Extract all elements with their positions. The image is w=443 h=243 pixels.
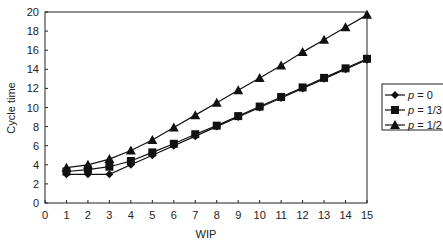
square-marker xyxy=(391,106,399,114)
x-tick-label: 14 xyxy=(339,209,351,221)
series-triangle xyxy=(61,10,372,172)
triangle-marker xyxy=(255,73,265,82)
triangle-marker xyxy=(276,60,286,69)
y-tick-label: 16 xyxy=(27,44,39,56)
square-marker xyxy=(127,157,135,165)
square-marker xyxy=(342,64,350,72)
x-tick-label: 2 xyxy=(85,209,91,221)
y-tick-label: 10 xyxy=(27,102,39,114)
square-marker xyxy=(363,55,371,63)
y-tick-label: 20 xyxy=(27,6,39,18)
x-tick-label: 3 xyxy=(106,209,112,221)
triangle-marker xyxy=(169,123,179,132)
triangle-marker xyxy=(190,110,200,119)
x-tick-label: 13 xyxy=(318,209,330,221)
triangle-marker xyxy=(362,10,372,19)
triangle-marker xyxy=(298,47,308,56)
x-axis-title: WIP xyxy=(196,228,217,240)
series-line xyxy=(66,15,367,168)
square-marker xyxy=(299,83,307,91)
x-tick-label: 12 xyxy=(296,209,308,221)
triangle-marker xyxy=(126,145,136,154)
series-lines xyxy=(61,10,372,178)
y-tick-label: 8 xyxy=(33,121,39,133)
triangle-marker xyxy=(233,85,243,94)
y-tick-label: 18 xyxy=(27,25,39,37)
x-tick-label: 4 xyxy=(128,209,134,221)
square-marker xyxy=(191,130,199,138)
square-marker xyxy=(213,122,221,130)
triangle-marker xyxy=(104,154,114,163)
x-tick-label: 7 xyxy=(192,209,198,221)
x-tick-label: 6 xyxy=(171,209,177,221)
square-marker xyxy=(234,112,242,120)
x-tick-label: 8 xyxy=(214,209,220,221)
legend: p = 0p = 1/3p = 1/2 xyxy=(382,84,443,131)
x-tick-label: 0 xyxy=(42,209,48,221)
square-marker xyxy=(105,163,113,171)
triangle-marker xyxy=(212,98,222,107)
triangle-marker xyxy=(147,135,157,144)
square-marker xyxy=(148,148,156,156)
legend-label: p = 1/3 xyxy=(407,104,442,116)
y-tick-label: 2 xyxy=(33,178,39,190)
x-tick-label: 10 xyxy=(254,209,266,221)
y-tick-label: 0 xyxy=(33,197,39,209)
triangle-marker xyxy=(341,22,351,31)
x-tick-label: 15 xyxy=(361,209,373,221)
legend-label: p = 0 xyxy=(407,89,433,101)
diamond-marker xyxy=(105,170,113,178)
square-marker xyxy=(256,103,264,111)
x-tick-label: 5 xyxy=(149,209,155,221)
square-marker xyxy=(320,74,328,82)
y-tick-label: 12 xyxy=(27,82,39,94)
triangle-marker xyxy=(319,35,329,44)
y-tick-label: 14 xyxy=(27,63,39,75)
x-tick-label: 9 xyxy=(235,209,241,221)
y-tick-label: 4 xyxy=(33,159,39,171)
cycle-time-chart: 02468101214161820 0123456789101112131415… xyxy=(0,0,443,243)
y-axis-title: Cycle time xyxy=(5,82,17,133)
legend-label: p = 1/2 xyxy=(407,119,442,131)
square-marker xyxy=(170,140,178,148)
x-tick-label: 11 xyxy=(275,209,286,221)
x-tick-label: 1 xyxy=(63,209,69,221)
y-tick-label: 6 xyxy=(33,140,39,152)
square-marker xyxy=(277,93,285,101)
